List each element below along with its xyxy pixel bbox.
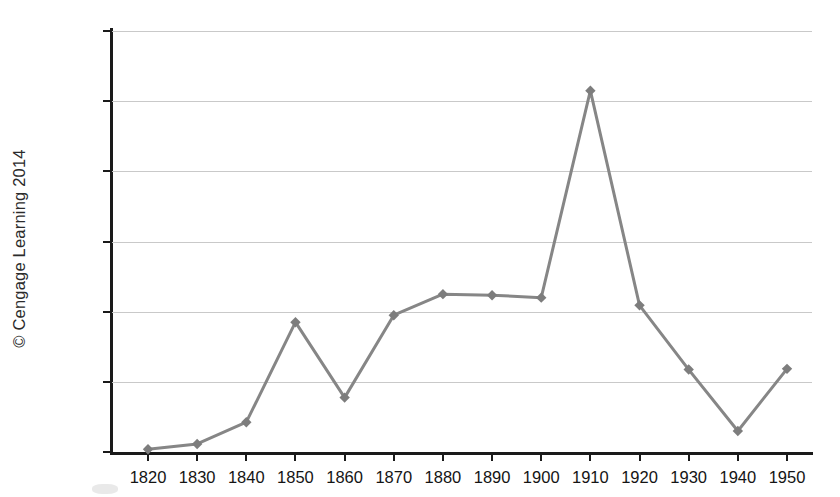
x-axis-label: 1950 <box>769 468 806 487</box>
x-axis-tick <box>639 452 641 461</box>
x-axis-label: 1910 <box>572 468 609 487</box>
x-axis-tick <box>294 452 296 461</box>
x-axis-label: 1830 <box>179 468 216 487</box>
x-axis-tick <box>393 452 395 461</box>
x-axis-label: 1920 <box>621 468 658 487</box>
data-point-marker[interactable] <box>585 85 595 95</box>
x-axis-tick <box>442 452 444 461</box>
data-series-group <box>112 31 812 452</box>
x-axis-label: 1850 <box>277 468 314 487</box>
y-axis-tick <box>103 241 110 243</box>
gridline <box>112 452 812 453</box>
data-point-marker[interactable] <box>241 417 251 427</box>
scan-artifact <box>92 484 118 494</box>
x-axis-label: 1820 <box>130 468 167 487</box>
plot-area: 0200,000400,000600,000800,0001,000,0001,… <box>112 31 812 452</box>
x-axis-tick <box>589 452 591 461</box>
x-axis-tick <box>491 452 493 461</box>
series-line <box>148 91 787 450</box>
y-axis-tick <box>103 381 110 383</box>
x-axis-tick <box>786 452 788 461</box>
x-axis-label: 1890 <box>474 468 511 487</box>
y-axis-tick <box>103 451 110 453</box>
y-axis-tick <box>103 30 110 32</box>
x-axis-label: 1940 <box>719 468 756 487</box>
chart-figure: © Cengage Learning 2014 0200,000400,0006… <box>0 0 840 497</box>
y-axis-tick <box>103 100 110 102</box>
x-axis-tick <box>344 452 346 461</box>
x-axis-tick <box>540 452 542 461</box>
data-point-marker[interactable] <box>192 439 202 449</box>
x-axis-label: 1900 <box>523 468 560 487</box>
x-axis-label: 1870 <box>375 468 412 487</box>
x-axis-tick <box>196 452 198 461</box>
x-axis-tick <box>737 452 739 461</box>
y-axis-tick <box>103 170 110 172</box>
x-axis-label: 1880 <box>425 468 462 487</box>
data-point-marker[interactable] <box>487 290 497 300</box>
x-axis-label: 1930 <box>670 468 707 487</box>
data-point-marker[interactable] <box>438 289 448 299</box>
y-axis-tick <box>103 311 110 313</box>
x-axis-label: 1860 <box>326 468 363 487</box>
x-axis-tick <box>688 452 690 461</box>
x-axis-label: 1840 <box>228 468 265 487</box>
data-point-marker[interactable] <box>536 292 546 302</box>
copyright-credit: © Cengage Learning 2014 <box>0 0 38 497</box>
x-axis-tick <box>245 452 247 461</box>
